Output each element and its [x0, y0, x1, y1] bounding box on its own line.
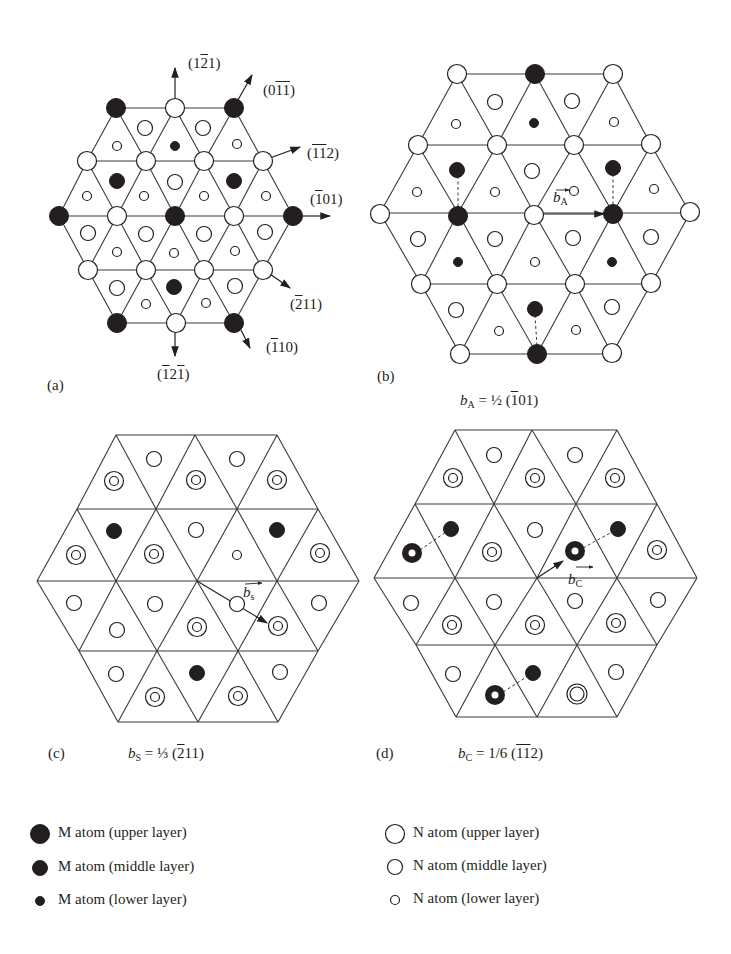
n-upper-atom — [488, 136, 507, 155]
panel-label-c: (c) — [48, 746, 65, 761]
legend-item-m-upper: M atom (upper layer) — [58, 825, 187, 840]
m-lower-atom — [454, 258, 463, 267]
n-middle-atom — [168, 175, 183, 190]
panel-c-lattice — [37, 435, 359, 722]
burgers-vector-caption-b: bA = ½ (101) — [460, 393, 538, 410]
m-middle-atom — [110, 174, 125, 189]
n-middle-atom — [148, 597, 163, 612]
n-middle-atom — [568, 594, 583, 609]
n-upper-atom — [565, 136, 584, 155]
n-middle-atom — [605, 300, 620, 315]
burgers-vector-bs-label: bs — [243, 585, 254, 602]
n-upper-atom — [642, 135, 661, 154]
n-middle-atom — [109, 667, 124, 682]
n-upper-atom — [603, 344, 622, 363]
n-middle-atom — [312, 596, 327, 611]
m-middle-atom — [611, 522, 626, 537]
n-ring-atom — [311, 544, 330, 563]
n-lower-atom — [531, 258, 540, 267]
n-ring-atom — [105, 472, 124, 491]
m-ring-shift-atom — [565, 541, 585, 561]
n-middle-atom — [110, 623, 125, 638]
n-lower-atom — [140, 192, 149, 201]
m-upper-atom — [107, 99, 126, 118]
n-upper-atom — [166, 99, 185, 118]
m-middle-atom — [526, 666, 541, 681]
m-upper-atom — [108, 314, 127, 333]
m-lower-atom-legend-swatch — [36, 897, 45, 906]
panel-d-lattice — [374, 430, 697, 717]
n-middle-atom-legend-swatch — [388, 860, 403, 875]
direction-2bar-1-1-label: (211) — [290, 297, 322, 312]
n-ring-atom — [146, 688, 165, 707]
n-lower-atom-legend-swatch — [391, 896, 400, 905]
n-middle-atom — [487, 448, 502, 463]
n-lower-atom — [170, 249, 179, 258]
n-upper-atom — [195, 261, 214, 280]
n-lower-atom — [491, 188, 500, 197]
n-ring-atom — [268, 471, 287, 490]
n-ring-atom — [443, 616, 462, 635]
m-middle-atom — [270, 523, 285, 538]
m-upper-atom — [528, 345, 547, 364]
m-ring-shift-atom — [402, 543, 422, 563]
n-lower-atom — [113, 248, 122, 257]
n-upper-atom — [254, 152, 273, 171]
n-middle-atom — [525, 164, 540, 179]
n-lower-atom — [452, 120, 461, 129]
n-middle-atom — [644, 230, 659, 245]
panel-label-d: (d) — [376, 746, 394, 761]
m-upper-atom — [284, 207, 303, 226]
n-middle-atom — [651, 593, 666, 608]
n-ring-atom — [648, 541, 667, 560]
n-middle-atom — [189, 523, 204, 538]
direction-0-1bar-1bar-label: (011) — [263, 83, 295, 98]
n-upper-atom — [604, 65, 623, 84]
m-middle-atom — [450, 163, 465, 178]
n-lower-atom — [495, 327, 504, 336]
m-lower-atom — [530, 119, 539, 128]
n-upper-atom — [488, 275, 507, 294]
n-upper-atom — [254, 261, 273, 280]
n-middle-atom — [110, 281, 125, 296]
n-middle-atom — [228, 279, 243, 294]
n-ring-atom — [526, 616, 545, 635]
n-lower-atom — [262, 192, 271, 201]
n-double-atom — [567, 684, 587, 704]
m-ring-shift-atom — [485, 685, 505, 705]
m-upper-atom — [449, 207, 468, 226]
n-middle-atom — [488, 232, 503, 247]
n-upper-atom — [451, 345, 470, 364]
n-lower-atom — [202, 299, 211, 308]
n-middle-atom — [568, 448, 583, 463]
n-ring-atom — [526, 469, 545, 488]
n-upper-atom — [448, 65, 467, 84]
direction-1bar-1-0-arrow — [241, 330, 250, 348]
n-lower-atom — [113, 142, 122, 151]
m-upper-atom — [225, 314, 244, 333]
m-middle-atom — [227, 174, 242, 189]
m-upper-atom — [50, 207, 69, 226]
m-upper-atom — [526, 65, 545, 84]
n-middle-atom — [258, 225, 273, 240]
n-middle-atom — [446, 667, 461, 682]
n-ring-atom — [269, 617, 288, 636]
n-middle-atom — [609, 665, 624, 680]
legend-item-m-lower: M atom (lower layer) — [58, 892, 187, 907]
n-middle-atom — [230, 452, 245, 467]
m-upper-atom — [604, 205, 623, 224]
n-ring-atom — [188, 618, 207, 637]
n-upper-atom — [167, 314, 186, 333]
n-ring-atom — [444, 469, 463, 488]
m-middle-atom — [190, 666, 205, 681]
legend-item-n-middle: N atom (middle layer) — [413, 858, 547, 873]
direction-1bar-1bar-2-arrow — [270, 147, 300, 158]
n-middle-atom — [138, 121, 153, 136]
m-middle-atom-legend-swatch — [33, 861, 48, 876]
lattice-diagram-canvas — [0, 0, 731, 954]
n-lower-atom — [572, 326, 581, 335]
n-middle-atom — [81, 226, 96, 241]
n-middle-atom — [488, 95, 503, 110]
n-lower-atom — [200, 192, 209, 201]
n-upper-atom — [137, 261, 156, 280]
